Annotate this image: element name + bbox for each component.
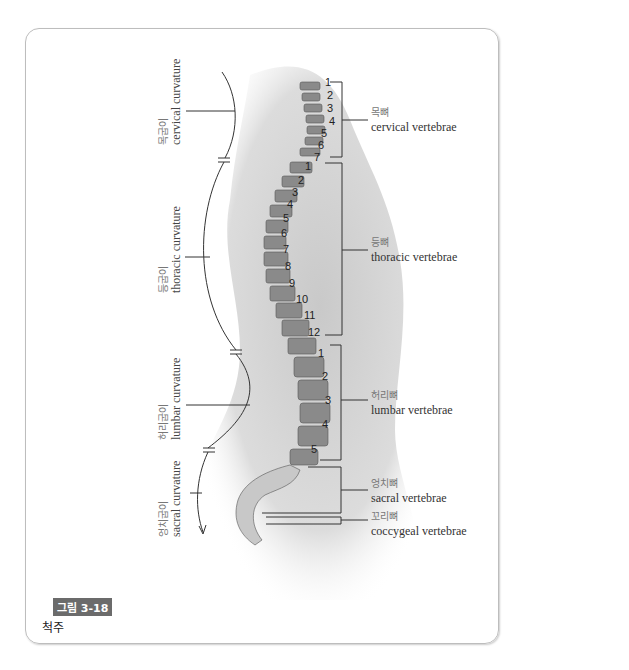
vertebra-number: 1 xyxy=(318,347,324,359)
vertebra-number: 7 xyxy=(283,243,289,255)
vertebra-number: 5 xyxy=(311,443,317,455)
figure-caption: 척주 xyxy=(42,618,64,635)
vertebra-number: 4 xyxy=(322,418,328,430)
vertebra-number: 7 xyxy=(314,151,320,163)
vertebra-number: 9 xyxy=(289,277,295,289)
label-thoracic-vertebrae: 등뼈 thoracic vertebrae xyxy=(371,236,457,264)
vertebra-number: 1 xyxy=(305,160,311,172)
figure-badge: 그림 3-18 xyxy=(53,598,112,616)
vertebra-number: 5 xyxy=(321,127,327,139)
label-cervical-vertebrae: 목뼈 cervical vertebrae xyxy=(371,106,457,134)
vertebra-number: 2 xyxy=(298,174,304,186)
vertebra-number: 6 xyxy=(281,227,287,239)
vertebra-number: 3 xyxy=(325,394,331,406)
vertebra-number: 2 xyxy=(322,370,328,382)
label-sacral-vertebrae: 엉치뼈 sacral vertebrae xyxy=(371,477,447,505)
vertebra-number: 11 xyxy=(304,309,315,321)
label-lumbar-vertebrae: 허리뼈 lumbar vertebrae xyxy=(371,389,453,417)
vertebra-number: 3 xyxy=(292,186,298,198)
vertebra-number: 6 xyxy=(318,139,324,151)
vertebra-number: 10 xyxy=(296,293,308,305)
vertebra-number: 12 xyxy=(308,326,320,338)
vertebra-number: 3 xyxy=(327,102,333,114)
label-cervical-curvature: 목굽이 cervical curvature xyxy=(157,59,183,145)
vertebra-number: 2 xyxy=(327,89,333,101)
vertebra-number: 4 xyxy=(287,198,293,210)
vertebra-number: 1 xyxy=(325,76,331,88)
label-thoracic-curvature: 등굽이 thoracic curvature xyxy=(157,206,183,293)
label-coccygeal-vertebrae: 꼬리뼈 coccygeal vertebrae xyxy=(371,510,467,538)
label-lumbar-curvature: 허리굽이 lumbar curvature xyxy=(157,358,183,440)
vertebra-number: 5 xyxy=(283,212,289,224)
vertebra-number: 4 xyxy=(329,115,335,127)
label-sacral-curvature: 엉치굽이 sacral curvature xyxy=(157,461,183,537)
vertebra-number: 8 xyxy=(285,260,291,272)
